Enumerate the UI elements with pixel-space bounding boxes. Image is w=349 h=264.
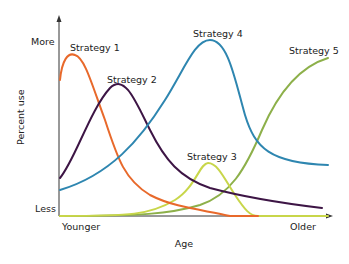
x-tick-older: Older [290, 221, 316, 232]
y-tick-more: More [31, 36, 55, 47]
label-strategy-3: Strategy 3 [187, 151, 237, 162]
strategy-use-chart: More Less Younger Older Age Percent use … [0, 0, 349, 264]
label-strategy-4: Strategy 4 [193, 28, 243, 39]
label-strategy-2: Strategy 2 [107, 74, 157, 85]
series-curves [60, 40, 328, 216]
x-axis-title: Age [175, 238, 194, 249]
curve-strategy-2 [60, 84, 322, 208]
label-strategy-5: Strategy 5 [289, 45, 339, 56]
label-strategy-1: Strategy 1 [70, 42, 120, 53]
y-axis-arrow-icon [57, 15, 62, 22]
x-tick-younger: Younger [61, 221, 100, 232]
curve-strategy-5 [60, 58, 328, 216]
y-tick-less: Less [35, 203, 56, 214]
curve-strategy-4 [60, 40, 328, 190]
y-axis-title: Percent use [15, 89, 26, 145]
